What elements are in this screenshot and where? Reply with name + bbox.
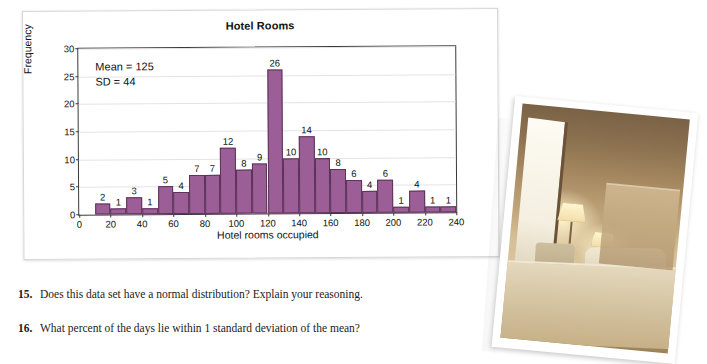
x-tick-label: 180 xyxy=(354,217,370,228)
y-tick-label: 15 xyxy=(64,126,75,137)
bar-value-label: 3 xyxy=(120,187,148,197)
lamp-stem xyxy=(568,222,572,244)
histogram-bar xyxy=(425,207,441,213)
bar-value-label: 10 xyxy=(308,147,336,157)
lamp-shade xyxy=(557,201,587,223)
x-tick-mark xyxy=(299,213,300,216)
lamp-icon xyxy=(555,201,587,245)
question-16-number: 16. xyxy=(18,322,40,334)
question-15: 15.Does this data set have a normal dist… xyxy=(18,288,363,300)
question-15-text: Does this data set have a normal distrib… xyxy=(40,288,363,300)
x-tick-label: 80 xyxy=(200,218,211,229)
mean-annotation: Mean = 125 xyxy=(95,59,153,74)
hotel-room-photo-card xyxy=(492,96,699,364)
histogram-bar xyxy=(189,175,205,214)
x-tick-label: 20 xyxy=(105,218,116,229)
bar-value-label: 1 xyxy=(434,196,462,206)
y-tick-mark xyxy=(76,159,79,160)
y-tick-mark xyxy=(76,186,79,187)
bar-value-label: 6 xyxy=(340,169,368,179)
bar-value-label: 4 xyxy=(403,179,431,189)
histogram-bar xyxy=(393,207,409,213)
histogram-bar xyxy=(252,164,268,214)
bar-value-label: 12 xyxy=(214,136,242,146)
y-axis-label: Frequency xyxy=(21,24,33,74)
histogram-bar xyxy=(283,158,299,213)
y-tick-label: 20 xyxy=(64,99,75,110)
lamp-shade xyxy=(590,231,617,249)
y-tick-label: 10 xyxy=(64,154,75,165)
x-tick-label: 160 xyxy=(323,217,339,228)
histogram-bar xyxy=(362,191,378,213)
x-tick-label: 100 xyxy=(228,218,244,229)
bar-value-label: 26 xyxy=(261,59,289,69)
histogram-bar xyxy=(440,207,456,213)
hotel-room-photo xyxy=(500,104,689,354)
x-tick-label: 40 xyxy=(137,218,148,229)
x-tick-mark xyxy=(236,214,237,217)
y-tick-mark xyxy=(75,76,78,77)
x-tick-mark xyxy=(362,213,363,216)
histogram-bar xyxy=(142,209,158,215)
sd-annotation: SD = 44 xyxy=(95,74,153,89)
question-15-number: 15. xyxy=(18,288,40,300)
x-tick-mark xyxy=(331,213,332,216)
histogram-bar xyxy=(267,70,284,214)
statistics-annotation: Mean = 125 SD = 44 xyxy=(95,59,154,89)
y-tick-mark xyxy=(76,103,79,104)
y-tick-label: 30 xyxy=(64,43,75,54)
histogram-bar xyxy=(220,147,236,213)
x-tick-label: 240 xyxy=(448,216,464,227)
histogram-bar xyxy=(205,175,221,214)
x-tick-label: 220 xyxy=(417,216,433,227)
x-tick-mark xyxy=(142,214,143,217)
chart-card: Hotel Rooms Frequency 213154771289261014… xyxy=(22,8,500,260)
y-tick-mark xyxy=(76,131,79,132)
x-axis-label: Hotel rooms occupied xyxy=(78,227,457,241)
question-16: 16.What percent of the days lie within 1… xyxy=(18,322,360,334)
x-tick-mark xyxy=(173,214,174,217)
x-tick-mark xyxy=(456,212,457,215)
x-tick-label: 60 xyxy=(168,218,179,229)
bar-value-label: 6 xyxy=(371,169,399,179)
x-tick-mark xyxy=(393,213,394,216)
question-16-text: What percent of the days lie within 1 st… xyxy=(40,322,360,334)
chart-title: Hotel Rooms xyxy=(23,18,497,33)
y-tick-label: 25 xyxy=(64,71,75,82)
lamp-stem xyxy=(600,248,604,266)
x-tick-mark xyxy=(79,215,80,218)
histogram-bar xyxy=(111,209,127,215)
bar-value-label: 8 xyxy=(324,158,352,168)
histogram-bar xyxy=(236,169,252,213)
x-tick-label: 120 xyxy=(260,217,276,228)
y-tick-label: 5 xyxy=(70,182,75,193)
bar-value-label: 14 xyxy=(293,125,321,135)
y-tick-label: 0 xyxy=(70,209,75,220)
bed-shape xyxy=(500,260,683,350)
histogram-bar xyxy=(173,192,189,214)
y-tick-mark xyxy=(75,48,78,49)
x-tick-label: 140 xyxy=(291,217,307,228)
x-tick-label: 200 xyxy=(385,217,401,228)
x-tick-label: 0 xyxy=(77,219,82,230)
x-tick-mark xyxy=(268,213,269,216)
x-tick-mark xyxy=(205,214,206,217)
x-tick-mark xyxy=(425,213,426,216)
x-tick-mark xyxy=(111,214,112,217)
